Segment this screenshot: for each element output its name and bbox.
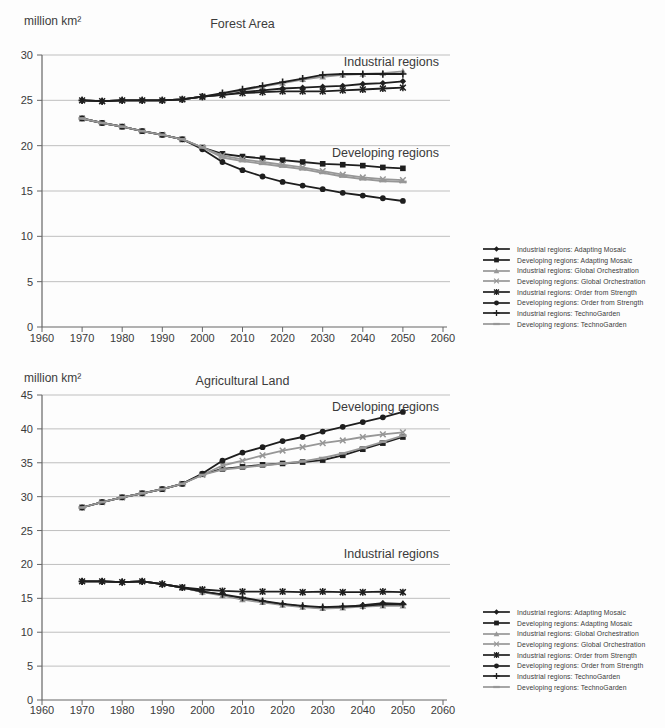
square-marker-icon bbox=[482, 618, 512, 628]
circle-marker-icon bbox=[482, 298, 512, 308]
y-tick-label: 10 bbox=[21, 626, 33, 638]
legend-item-industrial-regions-order-from-strength: Industrial regions: Order from Strength bbox=[482, 287, 645, 298]
legend-item-developing-regions-global-orchestration: Developing regions: Global Orchestration bbox=[482, 639, 645, 650]
legend-item-industrial-regions-technogarden: Industrial regions: TechnoGarden bbox=[482, 308, 645, 319]
forest-chart-plot: 0510152025301960197019801990200020102020… bbox=[0, 45, 465, 357]
region-annotation: Developing regions bbox=[332, 400, 439, 414]
x-tick-label: 2000 bbox=[190, 704, 214, 716]
y-tick-label: 5 bbox=[27, 660, 33, 672]
legend-label: Developing regions: Adapting Mosaic bbox=[517, 620, 632, 627]
legend-label: Developing regions: Adapting Mosaic bbox=[517, 257, 632, 264]
legend-item-industrial-regions-global-orchestration: Industrial regions: Global Orchestration bbox=[482, 265, 645, 276]
legend-item-developing-regions-order-from-strength: Developing regions: Order from Strength bbox=[482, 297, 645, 308]
legend-label: Developing regions: Order from Strength bbox=[517, 662, 643, 669]
forest-chart-title: Forest Area bbox=[42, 17, 443, 31]
x-tick-label: 2040 bbox=[351, 332, 375, 344]
legend-item-developing-regions-adapting-mosaic: Developing regions: Adapting Mosaic bbox=[482, 618, 645, 629]
circle-marker-icon bbox=[482, 661, 512, 671]
agricultural-legend: Industrial regions: Adapting MosaicDevel… bbox=[482, 607, 645, 693]
y-tick-label: 20 bbox=[21, 140, 33, 152]
legend-label: Industrial regions: Global Orchestration bbox=[517, 630, 639, 637]
diamond-marker-icon bbox=[482, 244, 512, 254]
x-axis-tick-labels: 1960197019801990200020102020203020402050… bbox=[30, 704, 455, 716]
x-tick-label: 1980 bbox=[110, 704, 134, 716]
legend-label: Developing regions: Order from Strength bbox=[517, 299, 643, 306]
agricultural-chart-plot: 0510152025303540451960197019801990200020… bbox=[0, 383, 465, 728]
x-tick-label: 2050 bbox=[391, 704, 415, 716]
region-annotation: Industrial regions bbox=[344, 547, 439, 561]
dash-marker-icon bbox=[482, 682, 512, 692]
x-tick-label: 2020 bbox=[270, 332, 294, 344]
legend-label: Industrial regions: TechnoGarden bbox=[517, 673, 620, 680]
x-tick-label: 1970 bbox=[70, 332, 94, 344]
legend-item-developing-regions-global-orchestration: Developing regions: Global Orchestration bbox=[482, 276, 645, 287]
legend-label: Industrial regions: TechnoGarden bbox=[517, 310, 620, 317]
y-tick-label: 45 bbox=[21, 389, 33, 401]
legend-item-industrial-regions-adapting-mosaic: Industrial regions: Adapting Mosaic bbox=[482, 607, 645, 618]
region-annotation: Developing regions bbox=[332, 146, 439, 160]
x-tick-label: 2010 bbox=[230, 704, 254, 716]
series-industrial-regions-technogarden bbox=[79, 70, 407, 104]
triangle-marker-icon bbox=[482, 266, 512, 276]
x-tick-label: 2030 bbox=[310, 332, 334, 344]
legend-label: Industrial regions: Adapting Mosaic bbox=[517, 246, 626, 253]
star-marker-icon bbox=[482, 287, 512, 297]
y-tick-label: 5 bbox=[27, 276, 33, 288]
legend-label: Developing regions: TechnoGarden bbox=[517, 321, 627, 328]
x-tick-label: 1960 bbox=[30, 704, 54, 716]
legend-label: Industrial regions: Global Orchestration bbox=[517, 267, 639, 274]
legend-label: Industrial regions: Order from Strength bbox=[517, 652, 637, 659]
diamond-marker-icon bbox=[482, 607, 512, 617]
legend-item-industrial-regions-order-from-strength: Industrial regions: Order from Strength bbox=[482, 650, 645, 661]
x-tick-label: 1990 bbox=[150, 704, 174, 716]
x-axis-tick-labels: 1960197019801990200020102020203020402050… bbox=[30, 332, 455, 344]
forest-legend: Industrial regions: Adapting MosaicDevel… bbox=[482, 244, 645, 330]
x-tick-label: 2010 bbox=[230, 332, 254, 344]
x-tick-label: 1960 bbox=[30, 332, 54, 344]
y-axis-tick-labels: 051015202530354045 bbox=[21, 389, 33, 706]
y-tick-label: 20 bbox=[21, 558, 33, 570]
x-tick-label: 2020 bbox=[270, 704, 294, 716]
x-tick-label: 2050 bbox=[391, 332, 415, 344]
y-tick-label: 40 bbox=[21, 423, 33, 435]
y-tick-label: 30 bbox=[21, 49, 33, 61]
plus-marker-icon bbox=[482, 671, 512, 681]
series-developing-regions-adapting-mosaic bbox=[79, 434, 405, 510]
y-tick-label: 25 bbox=[21, 525, 33, 537]
dash-marker-icon bbox=[482, 319, 512, 329]
legend-label: Industrial regions: Order from Strength bbox=[517, 289, 637, 296]
plus-marker-icon bbox=[482, 308, 512, 318]
legend-label: Developing regions: Global Orchestration bbox=[517, 641, 645, 648]
y-tick-label: 10 bbox=[21, 230, 33, 242]
legend-item-industrial-regions-technogarden: Industrial regions: TechnoGarden bbox=[482, 671, 645, 682]
legend-label: Developing regions: Global Orchestration bbox=[517, 278, 645, 285]
x-tick-label: 2060 bbox=[431, 332, 455, 344]
x-tick-label: 1980 bbox=[110, 332, 134, 344]
series-developing-regions-global-orchestration bbox=[79, 429, 405, 510]
region-annotation: Industrial regions bbox=[344, 55, 439, 69]
legend-item-industrial-regions-global-orchestration: Industrial regions: Global Orchestration bbox=[482, 628, 645, 639]
x-tick-label: 2000 bbox=[190, 332, 214, 344]
legend-item-developing-regions-adapting-mosaic: Developing regions: Adapting Mosaic bbox=[482, 255, 645, 266]
series-developing-regions-technogarden bbox=[78, 434, 406, 508]
y-tick-label: 25 bbox=[21, 94, 33, 106]
x-tick-label: 2040 bbox=[351, 704, 375, 716]
square-marker-icon bbox=[482, 255, 512, 265]
x-tick-label: 2030 bbox=[310, 704, 334, 716]
legend-item-developing-regions-order-from-strength: Developing regions: Order from Strength bbox=[482, 660, 645, 671]
x-marker-icon bbox=[482, 276, 512, 286]
series-developing-regions-adapting-mosaic bbox=[79, 116, 405, 171]
gridlines bbox=[42, 395, 450, 666]
series-industrial-regions-order-from-strength bbox=[79, 578, 406, 596]
legend-label: Developing regions: TechnoGarden bbox=[517, 684, 627, 691]
y-tick-label: 30 bbox=[21, 491, 33, 503]
y-axis-tick-labels: 051015202530 bbox=[21, 49, 33, 333]
legend-label: Industrial regions: Adapting Mosaic bbox=[517, 609, 626, 616]
star-marker-icon bbox=[482, 650, 512, 660]
y-tick-label: 15 bbox=[21, 185, 33, 197]
legend-item-industrial-regions-adapting-mosaic: Industrial regions: Adapting Mosaic bbox=[482, 244, 645, 255]
triangle-marker-icon bbox=[482, 629, 512, 639]
series-industrial-regions-technogarden bbox=[79, 578, 407, 611]
x-tick-label: 1990 bbox=[150, 332, 174, 344]
legend-item-developing-regions-technogarden: Developing regions: TechnoGarden bbox=[482, 682, 645, 693]
